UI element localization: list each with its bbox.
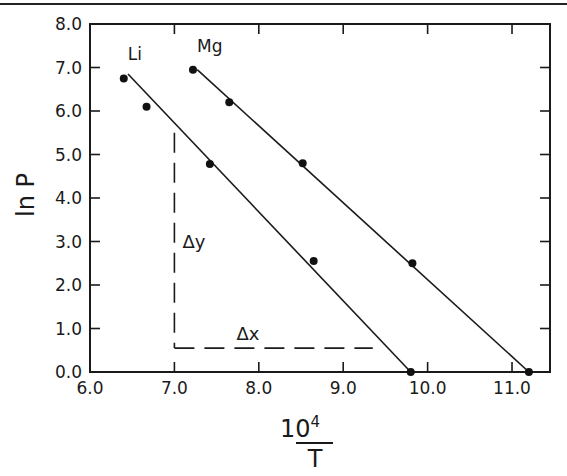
y-tick-label: 5.0 — [55, 145, 82, 165]
data-point — [206, 160, 214, 168]
x-tick-label: 9.0 — [330, 378, 357, 398]
y-tick-label: 0.0 — [55, 362, 82, 382]
y-tick-label: 1.0 — [55, 319, 82, 339]
x-label-exponent: 4 — [311, 413, 321, 431]
delta-y-label: Δy — [182, 231, 205, 252]
data-point — [407, 368, 415, 376]
series-label-mg: Mg — [197, 36, 222, 56]
x-tick-label: 7.0 — [161, 378, 188, 398]
data-point — [525, 368, 533, 376]
data-point — [408, 259, 416, 267]
data-point — [225, 98, 233, 106]
chart: 6.07.08.09.010.011.00.01.02.03.04.05.06.… — [0, 0, 567, 476]
y-tick-label: 8.0 — [55, 14, 82, 34]
data-point — [299, 159, 307, 167]
data-series: LiMg — [120, 36, 533, 376]
series-label-li: Li — [128, 44, 142, 64]
data-point — [189, 66, 197, 74]
plot-border — [90, 24, 550, 372]
y-tick-label: 7.0 — [55, 58, 82, 78]
x-label-base: 10 — [280, 415, 311, 443]
y-tick-label: 3.0 — [55, 232, 82, 252]
axis-ticks: 6.07.08.09.010.011.00.01.02.03.04.05.06.… — [55, 14, 550, 398]
delta-x-label: Δx — [236, 323, 259, 344]
x-tick-label: 10.0 — [409, 378, 447, 398]
y-tick-label: 2.0 — [55, 275, 82, 295]
x-tick-label: 11.0 — [493, 378, 531, 398]
data-point — [120, 74, 128, 82]
slope-annotation: ΔyΔx — [174, 133, 372, 348]
data-point — [143, 103, 151, 111]
plot-frame — [90, 24, 550, 372]
y-tick-label: 4.0 — [55, 188, 82, 208]
series-li: Li — [120, 44, 415, 376]
data-point — [310, 257, 318, 265]
x-axis-label-denominator: T — [307, 445, 323, 473]
fit-line-li — [128, 74, 411, 372]
y-tick-label: 6.0 — [55, 101, 82, 121]
y-axis-label: ln P — [12, 173, 40, 217]
x-tick-label: 8.0 — [245, 378, 272, 398]
x-axis-label-numerator: 104 — [280, 413, 320, 443]
